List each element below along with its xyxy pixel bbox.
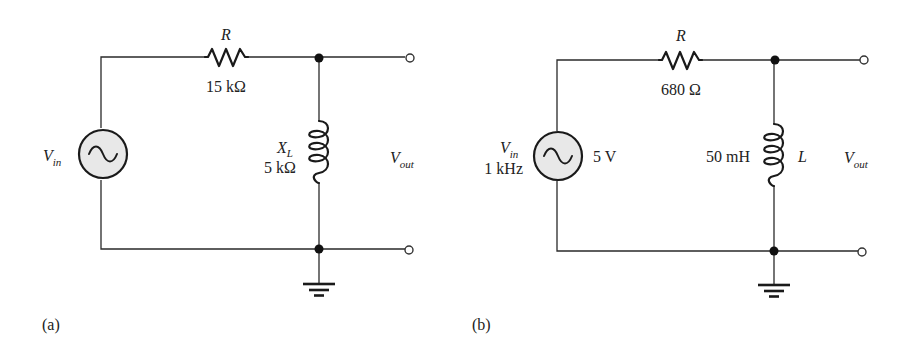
inductor-symbol — [764, 124, 783, 186]
caption-a: (a) — [42, 316, 60, 334]
source-amplitude-label: 5 V — [593, 148, 617, 165]
inductor-name-label: L — [797, 148, 807, 165]
resistor-value-label: 680 Ω — [661, 81, 701, 98]
inductor-name-label: XL — [276, 139, 293, 159]
resistor-symbol — [659, 52, 702, 69]
inductor-value-label: 50 mH — [706, 148, 750, 165]
caption-b: (b) — [472, 316, 491, 334]
junction-bottom — [770, 247, 779, 256]
inductor-symbol — [309, 121, 328, 183]
circuit-diagrams: R 15 kΩ Vin XL 5 kΩ Vout (a) — [0, 0, 914, 362]
output-terminal-top — [860, 56, 868, 64]
resistor-value-label: 15 kΩ — [206, 78, 246, 95]
wire-top-left — [101, 57, 205, 128]
source-label: Vin — [500, 139, 519, 160]
wire-top-left — [557, 60, 659, 131]
output-label: Vout — [390, 149, 415, 170]
output-terminal-bottom — [858, 248, 866, 256]
output-terminal-top — [406, 54, 414, 62]
junction-bottom — [315, 245, 324, 254]
wire-bottom — [557, 181, 860, 251]
junction-top — [315, 54, 324, 63]
resistor-name-label: R — [675, 27, 686, 44]
inductor-value-label: 5 kΩ — [264, 159, 296, 176]
ground-icon — [303, 284, 335, 296]
output-terminal-bottom — [405, 246, 413, 254]
output-label: Vout — [844, 149, 869, 170]
resistor-name-label: R — [220, 26, 231, 43]
source-label: Vin — [43, 147, 62, 168]
resistor-symbol — [205, 49, 248, 66]
circuit-a: R 15 kΩ Vin XL 5 kΩ Vout (a) — [42, 26, 415, 334]
source-frequency-label: 1 kHz — [484, 160, 523, 177]
circuit-b: R 680 Ω Vin 1 kHz 5 V 50 mH L Vout (b) — [472, 27, 869, 334]
ground-icon — [758, 285, 790, 297]
junction-top — [771, 56, 780, 65]
wire-bottom — [101, 180, 405, 249]
